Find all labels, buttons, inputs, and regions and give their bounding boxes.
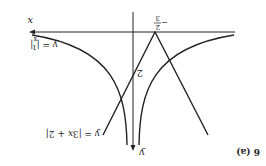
x-intercept-label: − 2 3 bbox=[154, 14, 168, 31]
graph-svg: x y − 2 3 2 y = |1x| y = |3x + 2| 6 (a) bbox=[0, 0, 266, 166]
y-intercept-label: 2 bbox=[137, 68, 143, 79]
x-intercept-numerator: 2 bbox=[156, 23, 160, 31]
x-intercept-denominator: 3 bbox=[156, 14, 160, 22]
abs-linear-equation-label: y = |3x + 2| bbox=[46, 128, 101, 139]
graph-figure: x y − 2 3 2 y = |1x| y = |3x + 2| 6 (a) bbox=[0, 0, 266, 166]
x-axis-label: x bbox=[27, 16, 33, 27]
y-axis-arrow-icon bbox=[131, 145, 136, 151]
reciprocal-right-branch bbox=[32, 35, 127, 145]
figure-label: 6 (a) bbox=[236, 147, 260, 157]
svg-text:−: − bbox=[161, 18, 168, 27]
y-axis-label: y bbox=[139, 148, 146, 159]
x-axis-arrow-icon bbox=[29, 30, 35, 35]
abs-linear-curve bbox=[103, 32, 208, 135]
reciprocal-left-branch bbox=[139, 35, 234, 145]
